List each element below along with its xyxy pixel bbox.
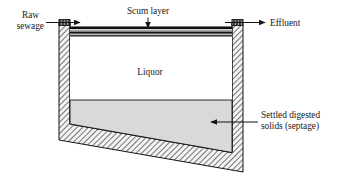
settled-solids-label-line2: solids (septage): [261, 121, 319, 132]
liquor-label: Liquor: [137, 67, 163, 77]
septic-tank-figure: Liquor Raw sewage Scum layer: [0, 0, 343, 182]
scum-layer-band-3: [70, 32, 232, 34]
scum-layer-zone: [70, 27, 232, 37]
septic-tank-diagram: Liquor Raw sewage Scum layer: [0, 0, 343, 182]
scum-layer-label: Scum layer: [127, 6, 170, 16]
liquor-zone: Liquor: [70, 36, 232, 100]
scum-layer-band-5: [70, 35, 232, 36]
effluent-label: Effluent: [270, 18, 301, 28]
settled-solids-label-line1: Settled digested: [261, 110, 320, 120]
scum-layer-band-1: [70, 27, 232, 30]
scum-layer-band-2: [70, 30, 232, 31]
raw-sewage-label-line2: sewage: [17, 21, 44, 31]
scum-layer-band-4: [70, 34, 232, 35]
raw-sewage-label-line1: Raw: [22, 10, 39, 20]
